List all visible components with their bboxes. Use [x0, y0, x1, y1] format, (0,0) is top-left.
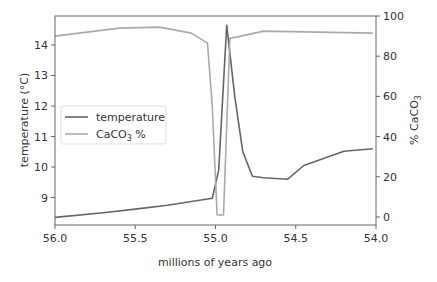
y-axis-right-label: % CaCO3 — [408, 95, 423, 145]
y-tick-label: 14 — [34, 39, 48, 52]
legend-label-temperature: temperature — [96, 111, 165, 124]
x-tick-label: 54.0 — [364, 232, 389, 245]
y-axis-right-ticks: 020406080100 — [376, 10, 404, 224]
y-tick-label: 9 — [41, 192, 48, 205]
y-tick-label: 10 — [34, 161, 48, 174]
chart-canvas: 56.055.555.054.554.0 91011121314 0204060… — [0, 0, 437, 282]
y-right-tick-label: 20 — [383, 171, 397, 184]
y-tick-label: 12 — [34, 100, 48, 113]
y-right-tick-label: 100 — [383, 10, 404, 23]
x-tick-label: 56.0 — [43, 232, 68, 245]
y-tick-label: 11 — [34, 131, 48, 144]
y-tick-label: 13 — [34, 69, 48, 82]
y-right-tick-label: 40 — [383, 131, 397, 144]
x-axis-label: millions of years ago — [158, 256, 272, 269]
x-tick-label: 55.0 — [203, 232, 228, 245]
y-right-tick-label: 80 — [383, 50, 397, 63]
x-axis-ticks: 56.055.555.054.554.0 — [43, 225, 389, 245]
y-axis-left-label: temperature (°C) — [18, 73, 31, 167]
y-axis-left-ticks: 91011121314 — [34, 39, 55, 205]
y-right-tick-label: 0 — [383, 211, 390, 224]
y-right-tick-label: 60 — [383, 90, 397, 103]
legend-label-caco3: CaCO3 % — [96, 128, 146, 143]
x-tick-label: 54.5 — [284, 232, 309, 245]
x-tick-label: 55.5 — [123, 232, 148, 245]
legend: temperature CaCO3 % — [61, 106, 166, 144]
